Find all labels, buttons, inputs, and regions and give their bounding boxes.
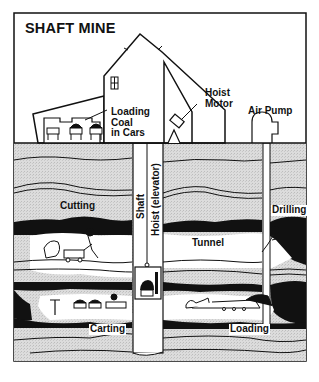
label-carting: Carting (89, 324, 126, 335)
label-shaft: Shaft (136, 194, 147, 219)
label-loading-coal: Loading Coal in Cars (111, 107, 150, 139)
label-loading: Loading (229, 324, 270, 335)
label-cutting: Cutting (60, 201, 95, 212)
label-air-pump: Air Pump (248, 106, 292, 117)
label-hoist-motor: Hoist Motor (205, 88, 233, 109)
label-drilling: Drilling (271, 205, 307, 216)
diagram-title: SHAFT MINE (25, 21, 116, 36)
label-tunnel: Tunnel (192, 238, 224, 249)
label-hoist-elevator: Hoist (elevator) (151, 163, 162, 236)
